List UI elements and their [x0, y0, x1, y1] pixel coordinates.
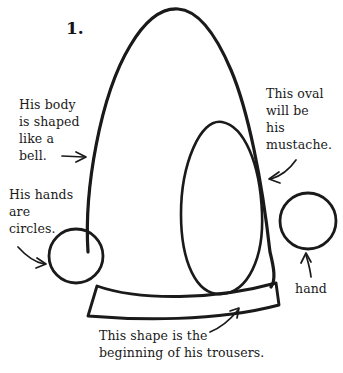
hands-annotation-arrow	[18, 247, 46, 268]
mustache-oval	[181, 122, 262, 294]
step-number: 1.	[66, 18, 84, 38]
bell-body-shape	[87, 9, 274, 287]
annotation-trousers-text: This shape is the beginning of his trous…	[99, 327, 264, 361]
trousers-shape	[88, 283, 279, 319]
annotation-mustache-text: This oval will be his mustache.	[266, 85, 332, 153]
bell-left-edge-highlight	[87, 9, 178, 252]
annotation-hand-text: hand	[295, 280, 327, 297]
annotation-body-text: His body is shaped like a bell.	[19, 96, 80, 164]
annotation-hands-text: His hands are circles.	[9, 186, 73, 237]
right-hand-circle	[280, 193, 336, 249]
left-hand-circle	[49, 229, 103, 283]
mustache-annotation-arrow	[269, 160, 296, 183]
hand-annotation-arrow	[301, 253, 311, 277]
drawing-tutorial-page: 1. His body is shaped like a bell. His h…	[0, 0, 343, 373]
